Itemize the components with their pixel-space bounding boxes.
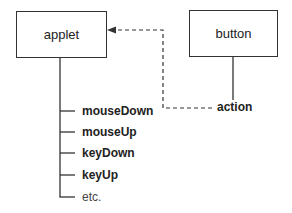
applet-node: applet [16,11,107,58]
button-label: button [215,26,251,41]
event-etc: etc. [82,190,101,204]
arrowhead-icon [107,27,116,34]
event-keyup: keyUp [82,168,118,182]
event-keydown: keyDown [82,146,135,160]
event-action: action [217,100,252,114]
event-mouseup: mouseUp [82,125,137,139]
applet-label: applet [44,27,79,42]
button-node: button [189,10,278,57]
event-mousedown: mouseDown [82,104,153,118]
